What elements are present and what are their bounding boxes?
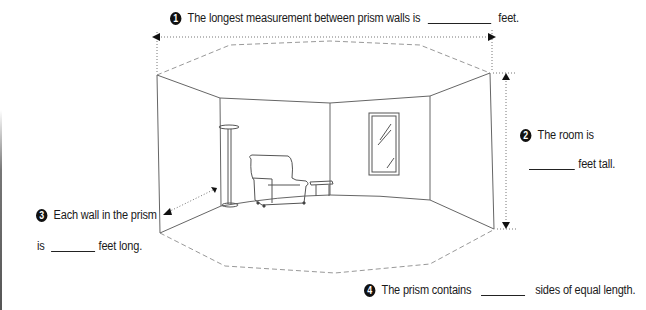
answer-blank-4[interactable] [481,283,525,296]
dimension-wall [166,189,215,213]
question-2-line2: feet tall. [529,157,615,171]
answer-blank-1[interactable] [428,11,491,24]
number-badge-1: 1 [170,12,181,25]
floor-lamp [219,125,239,207]
question-4-unit: sides of equal length. [535,283,635,297]
question-4: 4The prism contains sides of equal lengt… [364,283,635,297]
question-2: 2The room is [520,128,594,142]
question-4-text: The prism contains [382,283,472,297]
question-1-text: The longest measurement between prism wa… [188,11,421,25]
question-1: 1The longest measurement between prism w… [170,11,519,25]
answer-blank-2[interactable] [529,157,575,170]
number-badge-2: 2 [520,129,531,142]
dimension-height [493,73,516,229]
question-3-unit: feet long. [99,239,143,253]
walls [157,73,494,233]
question-3-text: Each wall in the prism [54,208,157,222]
window [369,113,399,175]
question-3-prefix: is [37,239,45,253]
floor-outline [160,229,495,273]
dimension-longest [157,30,492,74]
answer-blank-3[interactable] [51,239,95,252]
question-1-unit: feet. [498,11,519,25]
room-illustration [0,0,646,310]
ceiling-outline [157,41,490,75]
question-2-unit: feet tall. [578,157,615,171]
armchair [250,155,308,207]
question-3-line2: is feet long. [37,239,142,253]
number-badge-3: 3 [36,209,47,222]
question-2-text: The room is [538,128,594,142]
question-3: 3Each wall in the prism [36,208,157,222]
number-badge-4: 4 [364,284,375,297]
